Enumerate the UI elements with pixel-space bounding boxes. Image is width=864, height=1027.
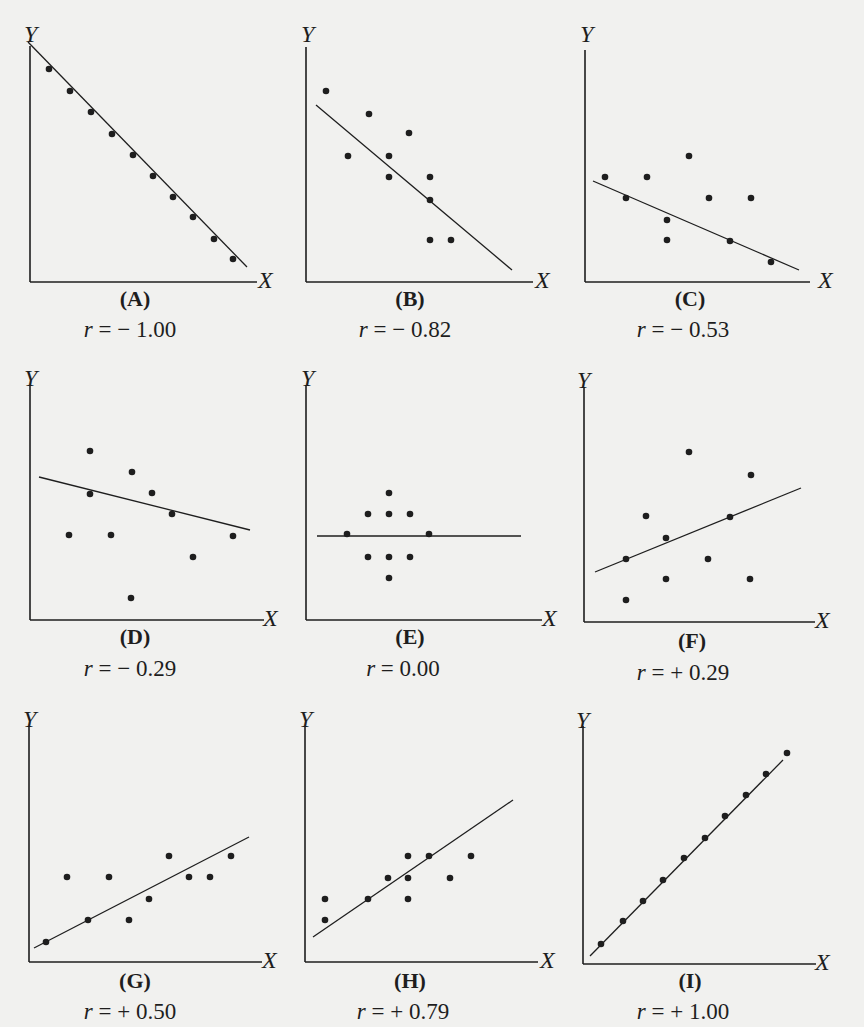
x-axis-label: X xyxy=(815,950,830,974)
data-point xyxy=(620,918,627,925)
data-point xyxy=(784,750,791,757)
data-point xyxy=(763,771,770,778)
data-point xyxy=(743,792,750,799)
data-point xyxy=(660,877,667,884)
data-point xyxy=(702,835,709,842)
data-point xyxy=(722,813,729,820)
data-point xyxy=(681,855,688,862)
data-point xyxy=(640,898,647,905)
correlation-scatterplot-grid: YX(A)r = − 1.00YX(B)r = − 0.82YX(C)r = −… xyxy=(0,0,864,1027)
data-point xyxy=(598,941,605,948)
scatter-plot-i xyxy=(0,0,864,1027)
correlation-coefficient-label: r = + 1.00 xyxy=(593,1000,773,1023)
y-axis-label: Y xyxy=(576,708,589,732)
panel-label: (I) xyxy=(650,970,730,992)
